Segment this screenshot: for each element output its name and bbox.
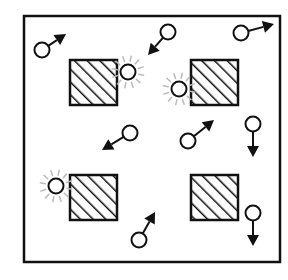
velocity-line: [155, 38, 163, 47]
particle-circle-icon: [181, 134, 196, 149]
particle-circle-icon: [49, 179, 64, 194]
particle-circle-icon: [35, 43, 50, 58]
arrowhead-icon: [54, 34, 66, 45]
particle-circle-icon: [132, 233, 147, 248]
particle-circle-icon: [234, 26, 249, 41]
velocity-line: [48, 40, 57, 46]
velocity-line: [194, 127, 206, 136]
particle-p11: [246, 206, 261, 247]
hatched-obstacle-top-right: [191, 60, 238, 105]
particle-p9: [40, 170, 71, 201]
hatched-obstacle-bottom-right: [191, 175, 238, 220]
arrowhead-icon: [247, 235, 259, 246]
hatched-obstacle-top-left: [70, 60, 117, 105]
velocity-line: [111, 137, 123, 144]
particle-p3: [234, 21, 275, 40]
velocity-line: [143, 222, 150, 234]
diagram-canvas: [0, 0, 288, 280]
particle-circle-icon: [246, 206, 261, 221]
particle-p8: [246, 117, 261, 158]
particle-circle-icon: [172, 82, 187, 97]
particle-p10: [132, 212, 156, 248]
velocity-line: [248, 27, 263, 31]
arrowhead-icon: [262, 21, 274, 33]
arrowhead-icon: [202, 120, 214, 132]
particle-circle-icon: [123, 126, 138, 141]
particle-p2: [148, 25, 176, 56]
particle-p6: [102, 126, 138, 151]
particle-circle-icon: [246, 117, 261, 132]
particle-circle-icon: [161, 25, 176, 40]
hatched-obstacle-bottom-left: [70, 175, 117, 220]
particle-circle-icon: [121, 65, 136, 80]
particle-p7: [181, 120, 215, 149]
particle-p1: [35, 34, 67, 58]
obstacle-group: [70, 60, 238, 220]
arrowhead-icon: [247, 146, 259, 157]
